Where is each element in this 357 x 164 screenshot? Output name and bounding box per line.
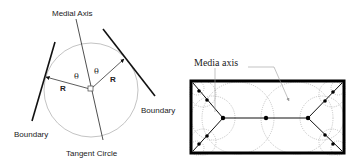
- medial-axis-figure: Medial Axis θ θ R R Boundary Boundary Ta…: [0, 0, 357, 164]
- tangent-circle-diagram: Medial Axis θ θ R R Boundary Boundary Ta…: [14, 9, 175, 158]
- media-axis-label: Media axis: [194, 57, 238, 68]
- radius-right-label: R: [110, 75, 116, 84]
- medial-axis-line: [76, 19, 103, 140]
- tangent-circle-label: Tangent Circle: [66, 149, 118, 158]
- theta-right-label: θ: [94, 67, 99, 76]
- center-point-icon: [88, 86, 93, 91]
- radius-left-arrow: [46, 77, 90, 89]
- boundary-left-line: [32, 42, 55, 121]
- media-axis-leaders: [215, 67, 289, 112]
- boundary-right-line: [103, 29, 155, 96]
- rectangle-medial-axis-diagram: Media axis: [190, 57, 345, 155]
- theta-left-label: θ: [74, 72, 79, 81]
- boundary-left-label: Boundary: [14, 130, 48, 139]
- radius-left-label: R: [60, 84, 66, 93]
- medial-axis-label: Medial Axis: [52, 9, 92, 18]
- boundary-right-label: Boundary: [141, 106, 175, 115]
